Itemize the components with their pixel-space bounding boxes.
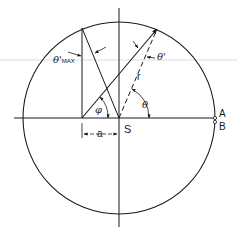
label-phi: φ — [95, 104, 102, 115]
point-a — [213, 116, 216, 119]
theta-max-arrow-right — [95, 47, 106, 53]
diagram-svg: θ'MAX θ' r φ θ a S A B — [0, 0, 237, 230]
diagram-canvas: θ'MAX θ' r φ θ a S A B — [0, 0, 237, 230]
label-theta: θ — [142, 99, 148, 110]
label-r: r — [137, 71, 141, 82]
theta-prime-arrow-right — [147, 57, 155, 58]
label-theta-prime: θ' — [157, 51, 166, 62]
label-b-point: B — [219, 121, 226, 132]
label-s: S — [124, 123, 131, 135]
label-theta-max: θ'MAX — [53, 54, 75, 65]
label-a-point: A — [219, 108, 226, 119]
theta-max-arrow-left — [68, 52, 81, 56]
point-b — [213, 120, 216, 123]
label-a: a — [97, 128, 103, 139]
theta-prime-arrow-left — [133, 41, 138, 48]
